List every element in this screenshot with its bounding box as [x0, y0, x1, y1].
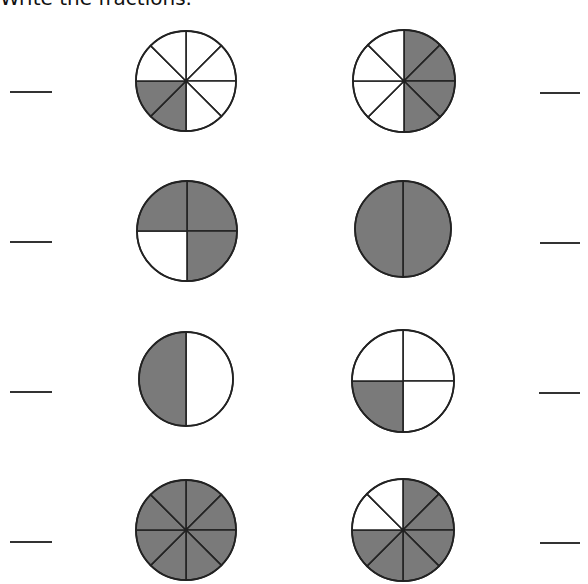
fraction-circle-6 [349, 327, 457, 435]
shaded-sector [139, 332, 186, 426]
answer-blank-4[interactable] [540, 242, 580, 244]
fraction-circle-8 [349, 476, 457, 584]
empty-sector [186, 332, 233, 426]
answer-blank-5[interactable] [10, 391, 52, 393]
answer-blank-2[interactable] [540, 92, 580, 94]
shaded-sector [403, 181, 451, 277]
shaded-sector [355, 181, 403, 277]
fraction-circle-1 [133, 28, 239, 134]
answer-blank-7[interactable] [10, 541, 52, 543]
answer-blank-1[interactable] [10, 91, 52, 93]
answer-blank-3[interactable] [10, 241, 52, 243]
fraction-circle-5 [136, 329, 236, 429]
fraction-circle-2 [350, 27, 458, 135]
fraction-circle-7 [133, 477, 239, 583]
answer-blank-8[interactable] [540, 542, 580, 544]
instruction-text: Write the fractions. [0, 0, 192, 10]
fraction-circle-3 [134, 178, 240, 284]
fraction-circle-4 [352, 178, 454, 280]
answer-blank-6[interactable] [539, 392, 580, 394]
